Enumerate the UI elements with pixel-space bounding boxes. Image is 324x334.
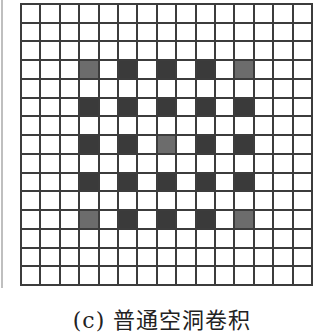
grid-cell [20,265,39,284]
grid-cell [20,78,39,97]
grid-cell [272,59,291,78]
grid-cell [214,153,233,172]
grid-cell [214,265,233,284]
grid-cell [98,59,117,78]
grid-cell [233,115,252,134]
grid-cell [20,134,39,153]
grid-cell [175,40,194,59]
grid-cell [59,3,78,22]
grid-cell [98,3,117,22]
grid-cell [272,3,291,22]
grid-cell [98,228,117,247]
grid-cell [98,190,117,209]
grid-cell [59,97,78,116]
grid-cell [175,59,194,78]
kernel-cell-light [156,134,175,153]
grid-cell [20,22,39,41]
grid-cell [272,153,291,172]
grid-cell [59,247,78,266]
grid-cell [136,40,155,59]
grid-cell [214,40,233,59]
grid-cell [195,228,214,247]
grid-cell [136,209,155,228]
kernel-cell [195,209,214,228]
grid-cell [292,172,311,191]
grid-cell [272,40,291,59]
grid-cell [253,134,272,153]
grid-cell [59,115,78,134]
grid-cell [175,153,194,172]
grid-cell [175,22,194,41]
grid-cell [59,172,78,191]
kernel-cell [195,172,214,191]
grid-cell [20,190,39,209]
grid-cell [59,78,78,97]
grid-cell [59,190,78,209]
grid-cell [292,22,311,41]
kernel-cell [195,134,214,153]
grid-cell [117,115,136,134]
grid-cell [20,209,39,228]
grid-cell [39,209,58,228]
kernel-cell [156,209,175,228]
grid-cell [272,97,291,116]
kernel-cell [195,97,214,116]
grid-cell [292,97,311,116]
grid-cell [98,40,117,59]
grid-cell [39,247,58,266]
grid-cell [156,190,175,209]
grid-cell [214,3,233,22]
grid-cell [272,115,291,134]
grid-cell [78,40,97,59]
grid-cell [195,22,214,41]
grid-cell [214,190,233,209]
grid-cell [175,78,194,97]
grid-cell [39,22,58,41]
grid-cell [136,22,155,41]
grid-cell [136,265,155,284]
grid-cell [214,115,233,134]
grid-cell [59,134,78,153]
grid-cell [253,172,272,191]
grid-cell [59,228,78,247]
grid-cell [117,78,136,97]
grid-cell [253,209,272,228]
grid-cell [117,3,136,22]
grid-cell [253,115,272,134]
grid-cell [98,153,117,172]
grid-cell [195,190,214,209]
grid-cell [292,115,311,134]
grid-cell [253,40,272,59]
grid-cell [272,265,291,284]
grid-cell [136,59,155,78]
grid-cell [156,247,175,266]
grid-cell [78,265,97,284]
grid-cell [214,22,233,41]
grid-cell [156,115,175,134]
grid-cell [175,209,194,228]
grid-cell [175,228,194,247]
grid-cell [59,209,78,228]
grid-cell [20,115,39,134]
kernel-cell [156,97,175,116]
grid-cell [98,22,117,41]
kernel-cell-light [78,59,97,78]
grid-cell [117,40,136,59]
grid-cell [233,265,252,284]
kernel-cell [117,172,136,191]
grid-cell [233,247,252,266]
grid-cell [39,153,58,172]
grid-cell [98,78,117,97]
grid-cell [39,115,58,134]
grid-cell [233,40,252,59]
grid-cell [272,172,291,191]
grid-cell [175,3,194,22]
grid-cell [136,78,155,97]
grid-cell [156,265,175,284]
grid-cell [175,190,194,209]
grid-cell [98,265,117,284]
grid-cell [117,153,136,172]
grid-cell [156,3,175,22]
grid-cell [78,3,97,22]
grid-cell [253,265,272,284]
